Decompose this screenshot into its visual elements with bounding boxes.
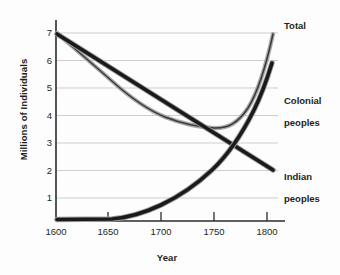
chart-container: 7 6 5 4 3 2 1 1600 1650 1700 1750 1800 M… — [0, 0, 340, 275]
series-total-shadow — [57, 33, 273, 128]
series-label-colonial: Colonial peoples — [284, 84, 321, 139]
series-colonial-halo — [57, 63, 272, 220]
y-tick-label-5: 5 — [38, 82, 52, 93]
y-tick-label-2: 2 — [38, 165, 52, 176]
x-tick-label-1600: 1600 — [36, 226, 76, 237]
y-tick-label-4: 4 — [38, 110, 52, 121]
x-tick-label-1650: 1650 — [88, 226, 128, 237]
x-tick-label-1800: 1800 — [247, 226, 287, 237]
series-label-indian-line1: Indian — [284, 171, 320, 182]
series-total-line — [57, 33, 273, 128]
x-tick-label-1750: 1750 — [194, 226, 234, 237]
y-tick-label-6: 6 — [38, 55, 52, 66]
series-label-total: Total — [284, 20, 306, 31]
x-axis-title: Year — [122, 252, 212, 263]
y-tick-label-1: 1 — [38, 192, 52, 203]
y-tick-label-3: 3 — [38, 137, 52, 148]
series-indian-line — [57, 34, 273, 170]
y-axis-title: Millions of Individuals — [18, 40, 29, 180]
x-tick-label-1700: 1700 — [141, 226, 181, 237]
series-colonial-line — [57, 63, 272, 220]
series-label-colonial-line2: peoples — [284, 117, 321, 128]
series-label-indian: Indian peoples — [284, 160, 320, 215]
series-label-indian-line2: peoples — [284, 193, 320, 204]
y-tick-label-7: 7 — [38, 27, 52, 38]
series-label-colonial-line1: Colonial — [284, 95, 321, 106]
